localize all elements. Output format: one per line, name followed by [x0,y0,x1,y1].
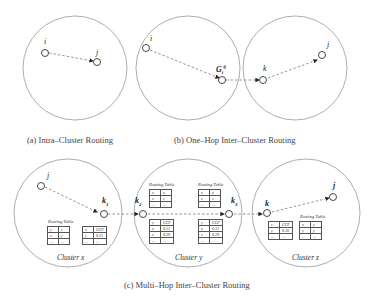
node-b-j [319,52,326,59]
node-c-k1 [101,211,108,218]
routing-table-y2: xx zz ...... [198,189,221,208]
cluster-label-x: Cluster x [57,253,84,262]
cluster-label-z: Cluster z [292,253,319,262]
node-label-c-j-src: j [47,171,49,180]
node-b-g [219,77,226,84]
node-c-k [264,210,271,217]
ccp-table-x: xCCP y0.21 ...... [82,226,107,245]
routing-table-title-x: Routing Table [48,219,73,224]
node-label-b-g: Giij [216,64,226,75]
node-c-j-src [38,183,45,190]
node-label-b-j: j [327,40,329,49]
node-b-k [260,77,267,84]
routing-table-y1: xx zz ...... [149,189,172,208]
caption-a: (a) Intra–Cluster Routing [27,135,113,145]
routing-table-title-z: Routing Table [300,214,325,219]
node-b-i [143,45,150,52]
node-c-j [330,194,337,201]
cluster-label-y: Cluster y [175,253,202,262]
caption-b: (b) One–Hop Inter–Cluster Routing [174,135,296,145]
node-label-b-i: i [150,34,152,43]
routing-table-title-y2: Routing Table [198,182,223,187]
node-label-c-k3: k3 [231,196,238,207]
node-label-c-k2: k2 [135,196,142,207]
caption-c: (c) Multi–Hop Inter–Cluster Routing [124,280,250,290]
ccp-table-y1: yCCP x0.12 z0.20 ...... [149,219,174,244]
node-label-a-i: i [44,37,46,46]
routing-table-title-y1: Routing Table [149,182,174,187]
cluster-circle-a [23,16,127,120]
ccp-table-y2: yCCP x0.12 z0.20 ...... [198,219,223,244]
routing-table-x: yy zy ...... [47,226,70,245]
node-label-c-j: j [333,181,335,190]
ccp-table-z: zCCP y0.16 ...... [268,221,293,240]
node-c-k3 [226,211,233,218]
node-label-c-k1: k1 [102,196,109,207]
node-label-a-j: j [96,48,98,57]
node-a-i [42,50,49,57]
routing-table-z: xy yy ...... [299,221,322,240]
node-label-c-k: k [265,199,269,208]
node-a-j [94,59,101,66]
node-c-k2 [140,211,147,218]
node-label-b-k: k [263,64,267,73]
